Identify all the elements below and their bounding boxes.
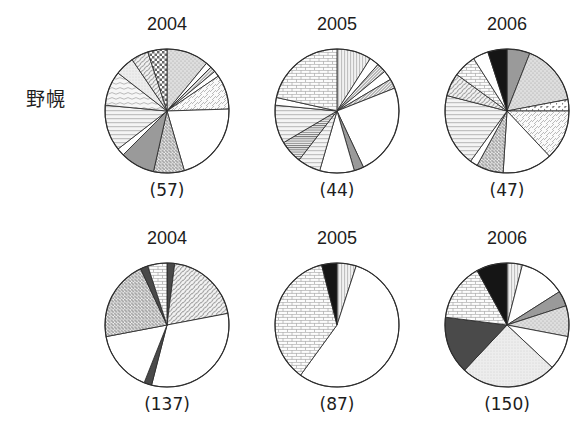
figure-row-nopporo: 野幌 2004 (57) 2005 (44) 2006 (47): [0, 0, 578, 214]
sample-count-hokudai-2006: (150): [422, 394, 578, 414]
pie-cell-nopporo-2004: 2004 (57): [82, 0, 252, 214]
pie-cell-hokudai-2004: 2004 (137): [82, 214, 252, 428]
column-header-2005-lower: 2005: [252, 228, 422, 249]
pie-chart-figure: 野幌 2004 (57) 2005 (44) 2006 (47) 北大 2004…: [0, 0, 578, 428]
sample-count-hokudai-2005: (87): [252, 394, 422, 414]
pie-chart-nopporo-2004: [102, 46, 232, 176]
sample-count-nopporo-2004: (57): [82, 180, 252, 200]
column-header-2005: 2005: [252, 14, 422, 35]
pie-cell-hokudai-2005: 2005 (87): [252, 214, 422, 428]
row-label-nopporo: 野幌: [10, 84, 82, 111]
figure-row-hokudai: 北大 2004 (137) 2005 (87) 2006 (150): [0, 214, 578, 428]
pie-cell-nopporo-2006: 2006 (47): [422, 0, 578, 214]
column-header-2006: 2006: [422, 14, 578, 35]
pie-chart-hokudai-2006: [442, 260, 572, 390]
sample-count-nopporo-2006: (47): [422, 180, 578, 200]
pie-cell-hokudai-2006: 2006 (150): [422, 214, 578, 428]
pie-chart-hokudai-2005: [272, 260, 402, 390]
pie-chart-hokudai-2004: [102, 260, 232, 390]
pie-cell-nopporo-2005: 2005 (44): [252, 0, 422, 214]
column-header-2004-lower: 2004: [82, 228, 252, 249]
pie-chart-nopporo-2005: [272, 46, 402, 176]
pie-chart-nopporo-2006: [442, 46, 572, 176]
column-header-2004: 2004: [82, 14, 252, 35]
sample-count-hokudai-2004: (137): [82, 394, 252, 414]
column-header-2006-lower: 2006: [422, 228, 578, 249]
sample-count-nopporo-2005: (44): [252, 180, 422, 200]
